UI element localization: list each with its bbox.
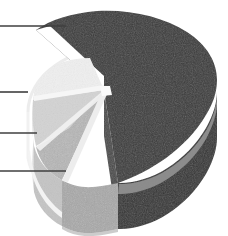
slice-4-side-wall bbox=[62, 180, 118, 233]
pie-chart-figure bbox=[0, 0, 228, 236]
